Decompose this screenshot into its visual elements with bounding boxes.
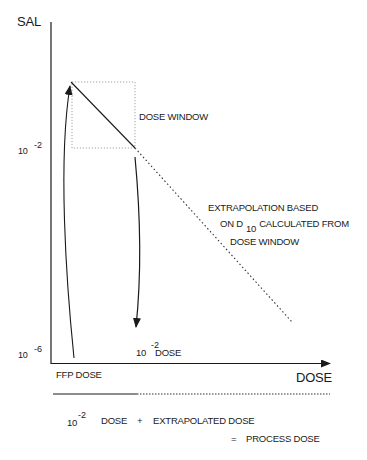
y-axis-label: SAL [17,14,41,29]
target-dose-base: 10 [136,347,146,358]
x-axis-label: DOSE [296,370,332,385]
diagram-canvas [0,0,367,460]
eq-term1-suffix: DOSE [101,415,127,426]
eq-term1-exp: -2 [78,410,86,420]
y-tick-base: 10 [18,146,28,156]
note-line-3: DOSE WINDOW [230,236,299,247]
ffp-dose-arrow [64,86,74,358]
eq-term2: EXTRAPOLATED DOSE [153,415,254,426]
note-line-1: EXTRAPOLATION BASED [208,202,318,213]
ffp-dose-label: FFP DOSE [56,369,102,380]
survival-line-extrapolated [135,148,292,322]
note-d-subscript: 10 [246,223,256,234]
eq-result: PROCESS DOSE [246,433,320,444]
eq-equals: = [231,433,236,444]
eq-term1-base: 10 [67,417,77,428]
target-dose-suffix: DOSE [155,347,181,358]
note-line-2: ON D10CALCULATED FROM [220,218,349,229]
y-tick-exp: -6 [34,344,42,354]
dose-window-label: DOSE WINDOW [139,111,208,122]
eq-plus: + [137,415,142,426]
survival-line-measured [71,82,135,148]
target-dose-arrow [135,157,140,327]
note-line-2-rest: CALCULATED FROM [259,218,349,229]
y-tick-base: 10 [18,350,28,360]
note-d-label: ON D [220,218,243,229]
y-tick-exp: -2 [34,140,42,150]
